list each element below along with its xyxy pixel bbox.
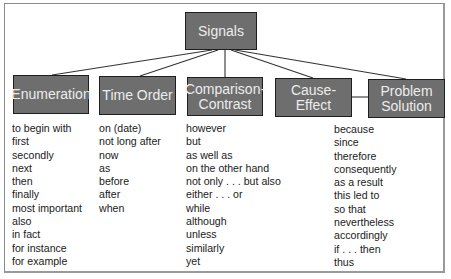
list-item: because [334, 123, 396, 136]
list-item: for example [12, 255, 82, 268]
cause-effect-label: Cause-Effect [276, 83, 351, 113]
list-item: although [186, 215, 281, 228]
list-item: either . . . or [186, 188, 281, 201]
list-item: after [99, 188, 161, 201]
list-item: on the other hand [186, 162, 281, 175]
list-item: accordingly [334, 229, 396, 242]
list-item: as [99, 162, 161, 175]
category-box-enumeration: Enumeration [13, 75, 89, 114]
list-item: before [99, 175, 161, 188]
list-item: since [334, 136, 396, 149]
list-item: not only . . . but also [186, 175, 281, 188]
list-item: while [186, 202, 281, 215]
comparison-contrast-signal-list: however but as well as on the other hand… [186, 122, 281, 268]
signals-root-box: Signals [185, 12, 257, 50]
list-item: secondly [12, 149, 82, 162]
list-item: to begin with [12, 122, 82, 135]
list-item: similarly [186, 242, 281, 255]
list-item: then [12, 175, 82, 188]
list-item: consequently [334, 163, 396, 176]
cause-effect-signal-list: because since therefore consequently as … [334, 123, 396, 269]
enumeration-signal-list: to begin with first secondly next then f… [12, 122, 82, 268]
problem-label-line1: Problem [380, 84, 432, 99]
list-item: as well as [186, 149, 281, 162]
problem-label-line2: Solution [381, 99, 432, 114]
list-item: but [186, 135, 281, 148]
time-order-signal-list: on (date) not long after now as before a… [99, 122, 161, 215]
list-item: first [12, 135, 82, 148]
list-item: this led to [334, 189, 396, 202]
list-item: unless [186, 228, 281, 241]
list-item: yet [186, 255, 281, 268]
list-item: on (date) [99, 122, 161, 135]
time-order-label: Time Order [102, 88, 172, 103]
category-box-cause-effect: Cause-Effect [275, 78, 352, 117]
category-box-problem-solution: Problem Solution [368, 79, 445, 118]
list-item: so that [334, 203, 396, 216]
enumeration-label: Enumeration [11, 87, 90, 102]
list-item: nevertheless [334, 216, 396, 229]
list-item: when [99, 202, 161, 215]
list-item: next [12, 162, 82, 175]
list-item: finally [12, 188, 82, 201]
category-box-comparison-contrast: Comparison- Contrast [187, 77, 263, 116]
list-item: therefore [334, 150, 396, 163]
list-item: however [186, 122, 281, 135]
list-item: also [12, 215, 82, 228]
list-item: thus [334, 256, 396, 269]
list-item: now [99, 149, 161, 162]
list-item: for instance [12, 242, 82, 255]
list-item: as a result [334, 176, 396, 189]
comparison-label-line1: Comparison- [185, 82, 265, 97]
list-item: most important [12, 202, 82, 215]
list-item: not long after [99, 135, 161, 148]
category-box-time-order: Time Order [99, 76, 176, 115]
list-item: in fact [12, 228, 82, 241]
list-item: if . . . then [334, 243, 396, 256]
signals-label: Signals [198, 24, 244, 39]
comparison-label-line2: Contrast [199, 97, 252, 112]
